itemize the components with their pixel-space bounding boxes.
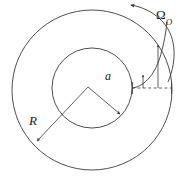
figure-container: R a ΩO (0, 0, 191, 185)
inner-circle (52, 48, 132, 128)
velocity-profile-curve (133, 22, 168, 88)
outer-radius-leader-line (37, 87, 88, 141)
omega-subscript: O (166, 17, 173, 27)
outer-radius-label: R (29, 114, 37, 127)
omega-symbol: Ω (156, 7, 166, 22)
angular-velocity-label: ΩO (156, 8, 172, 25)
annulus-diagram-svg (0, 0, 191, 185)
inner-radius-leader-line (88, 87, 120, 114)
inner-radius-label: a (105, 70, 111, 82)
